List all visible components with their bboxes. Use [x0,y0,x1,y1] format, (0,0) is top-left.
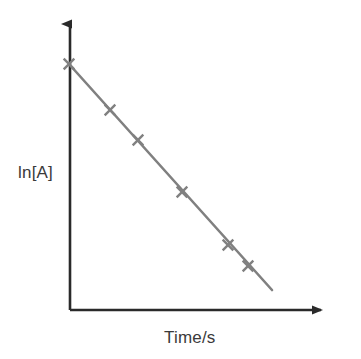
trend-line [69,64,272,290]
data-series-group [58,53,272,290]
x-axis-label: Time/s [164,329,216,346]
axes-group [70,24,321,310]
chart-figure: ln[A] Time/s [0,0,361,359]
chart-canvas [0,0,361,359]
data-point-marker [217,234,238,255]
y-axis-label: ln[A] [18,164,53,181]
